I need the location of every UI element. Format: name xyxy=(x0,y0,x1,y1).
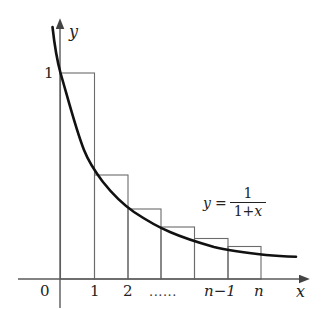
x-tick-label-1: 1 xyxy=(90,284,100,299)
hyperbola-curve xyxy=(53,27,297,257)
x-tick-label-n-minus-1: n−1 xyxy=(204,284,236,299)
equation-lhs: y xyxy=(203,195,211,211)
equation-denominator: 1+x xyxy=(230,203,267,219)
y-tick-label-1: 1 xyxy=(44,66,54,81)
denominator-x: x xyxy=(254,203,262,219)
denominator-plus: + xyxy=(243,203,255,219)
equation-fraction: 1 1+x xyxy=(230,186,267,219)
origin-label: 0 xyxy=(40,284,50,299)
x-tick-label-2: 2 xyxy=(123,284,133,299)
riemann-rect-5 xyxy=(195,239,229,280)
riemann-rect-1 xyxy=(61,73,95,279)
x-axis-label: x xyxy=(296,284,305,300)
y-axis-label: y xyxy=(69,24,78,40)
plot-canvas xyxy=(0,0,326,324)
equation-numerator: 1 xyxy=(238,186,257,202)
denominator-one: 1 xyxy=(234,203,243,219)
equation-equals-sign: = xyxy=(215,195,227,211)
x-tick-label-ellipsis: ······ xyxy=(149,288,177,303)
curve-equation-annotation: y = 1 1+x xyxy=(203,186,266,219)
x-tick-label-n: n xyxy=(254,284,264,299)
riemann-rectangles xyxy=(61,73,262,279)
math-figure-riemann-sum: y x 1 0 1 2 ······ n−1 n y = 1 1+x xyxy=(0,0,326,324)
